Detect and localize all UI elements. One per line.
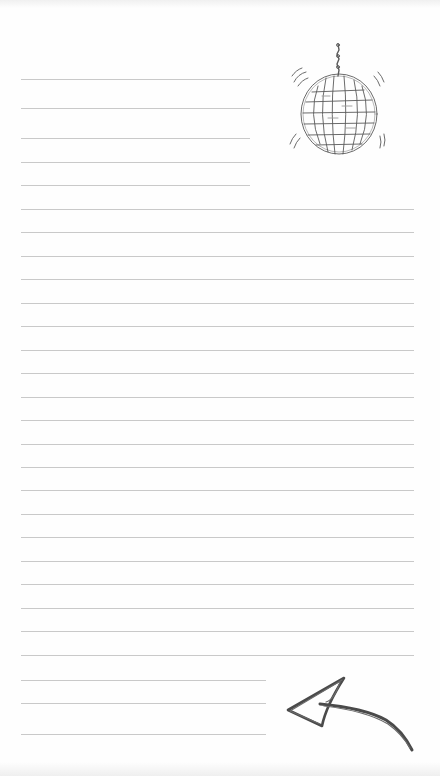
ruled-line-short	[21, 138, 250, 139]
ruled-line	[21, 420, 414, 421]
bottom-edge-shading	[0, 762, 440, 776]
ruled-line-short	[21, 185, 250, 186]
ruled-line	[21, 561, 414, 562]
ruled-line	[21, 514, 414, 515]
ruled-line-short	[21, 79, 250, 80]
ruled-line-short	[21, 734, 266, 735]
top-edge-shading	[0, 0, 440, 8]
ruled-line	[21, 444, 414, 445]
ruled-line	[21, 584, 414, 585]
ruled-line	[21, 279, 414, 280]
ruled-line	[21, 326, 414, 327]
disco-ball-icon	[282, 36, 392, 158]
ruled-line	[21, 397, 414, 398]
ruled-line	[21, 232, 414, 233]
ruled-line	[21, 209, 414, 210]
ruled-line-short	[21, 703, 266, 704]
arrow-icon	[284, 670, 434, 760]
ruled-line	[21, 303, 414, 304]
disco-ball-chain	[337, 44, 339, 76]
ruled-line	[21, 608, 414, 609]
ruled-line	[21, 537, 414, 538]
ruled-line	[21, 631, 414, 632]
arrow-head	[288, 678, 344, 726]
notepaper-page: Hand-drawn disco ball hanging from a cha…	[0, 0, 440, 776]
ruled-line	[21, 373, 414, 374]
ruled-line	[21, 256, 414, 257]
ruled-line-short	[21, 680, 266, 681]
ruled-line	[21, 350, 414, 351]
arrow-shaft	[320, 704, 412, 750]
ruled-line	[21, 655, 414, 656]
ruled-line-short	[21, 162, 250, 163]
disco-ball-outline	[301, 74, 377, 154]
ruled-line	[21, 490, 414, 491]
ruled-line-short	[21, 108, 250, 109]
ruled-line	[21, 467, 414, 468]
